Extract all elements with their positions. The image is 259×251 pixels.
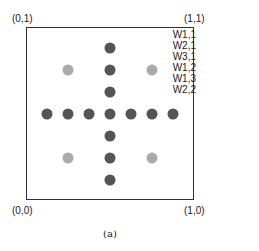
corner-label-bottom-left: (0,0) (12, 206, 33, 216)
legend: W1,1 W2,1 W3,1 W1,2 W1,3 W2,2 (173, 29, 196, 95)
dark-dot (105, 87, 116, 98)
dark-dot (105, 153, 116, 164)
legend-item: W1,2 (173, 62, 196, 73)
light-dot (63, 153, 74, 164)
legend-item: W3,1 (173, 51, 196, 62)
dark-dot (105, 109, 116, 120)
legend-item: W2,1 (173, 40, 196, 51)
dark-dot (105, 43, 116, 54)
dark-dot (105, 175, 116, 186)
legend-item: W1,1 (173, 29, 196, 40)
dark-dot (84, 109, 95, 120)
legend-item: W1,3 (173, 73, 196, 84)
dark-dot (168, 109, 179, 120)
dark-dot (42, 109, 53, 120)
light-dot (147, 65, 158, 76)
dark-dot (63, 109, 74, 120)
dark-dot (105, 131, 116, 142)
dark-dot (147, 109, 158, 120)
light-dot (63, 65, 74, 76)
legend-item: W2,2 (173, 84, 196, 95)
dark-dot (126, 109, 137, 120)
light-dot (147, 153, 158, 164)
corner-label-top-right: (1,1) (184, 14, 205, 24)
dark-dot (105, 65, 116, 76)
corner-label-top-left: (0,1) (12, 14, 33, 24)
figure-caption: (a) (0, 228, 220, 239)
corner-label-bottom-right: (1,0) (184, 206, 205, 216)
